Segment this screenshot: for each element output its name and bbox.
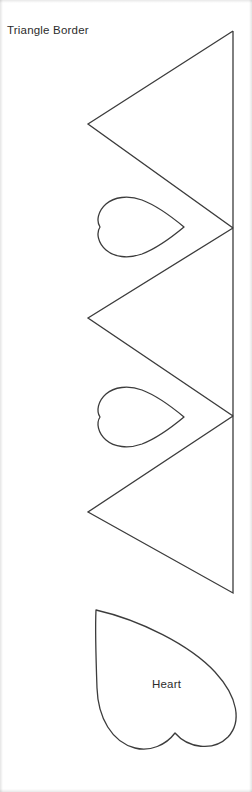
triangle-border-label: Triangle Border [7, 23, 89, 37]
heart-label: Heart [152, 677, 181, 691]
template-artboard [0, 0, 252, 792]
template-page: Triangle Border Heart [0, 0, 252, 792]
page-background [0, 0, 252, 792]
